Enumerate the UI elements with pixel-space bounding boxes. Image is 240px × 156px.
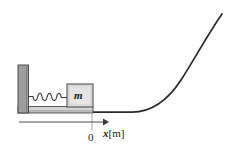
floor-highlight	[28, 107, 92, 109]
x-axis-arrowhead	[103, 119, 109, 126]
x-axis-label: x[m]	[103, 128, 124, 139]
mass-label: m	[74, 90, 83, 101]
physics-diagram-figure: m 0 x[m]	[0, 0, 240, 156]
curved-ramp-path	[93, 14, 222, 112]
origin-label: 0	[88, 132, 94, 143]
wall-block	[18, 65, 29, 113]
spring-coil	[29, 93, 68, 100]
x-axis-unit: [m]	[109, 127, 125, 139]
